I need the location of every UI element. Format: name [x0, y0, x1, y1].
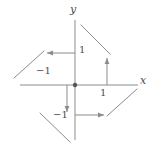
x-axis-label: x — [140, 75, 146, 86]
y-axis-label: y — [70, 4, 76, 15]
tick-label-x-negative-one: −1 — [36, 66, 51, 76]
origin-dot — [73, 83, 77, 87]
tick-label-y-positive-one: 1 — [79, 45, 85, 55]
figure-canvas — [0, 0, 156, 153]
vector-field-figure: y x 1 −1 1 −1 — [0, 0, 156, 153]
tick-label-x-positive-one: 1 — [100, 88, 106, 98]
diagonal-lower-right — [107, 89, 137, 116]
tick-label-y-negative-one: −1 — [53, 110, 68, 120]
